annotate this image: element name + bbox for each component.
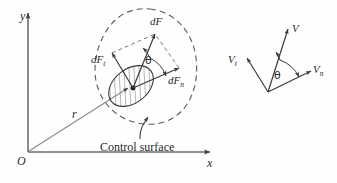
origin-label: O — [17, 155, 26, 167]
axis-x-label: x — [207, 157, 212, 169]
velocity-normal-label: Vn — [313, 64, 323, 78]
force-tangential-label: dFt — [91, 54, 105, 68]
velocity-angle-label: θ — [274, 70, 281, 81]
diagram-vector-graphics — [0, 0, 337, 183]
velocity-tangential-label: Vt — [228, 54, 237, 68]
velocity-tangential-subscript: t — [235, 59, 237, 68]
velocity-vector-V — [268, 29, 288, 92]
velocity-resultant-label: V — [292, 23, 299, 34]
force-tangential-subscript: t — [103, 59, 105, 68]
figure-canvas: y x O r dF dFt dFn θ Control surface V V… — [0, 0, 337, 183]
force-normal-base: dF — [168, 74, 180, 86]
differential-area-element — [101, 57, 161, 115]
force-resultant-label: dF — [150, 16, 162, 27]
velocity-normal-base: V — [313, 63, 320, 75]
force-normal-subscript: n — [180, 80, 184, 89]
position-vector-label: r — [72, 108, 77, 120]
control-surface-leader — [140, 117, 148, 139]
velocity-normal-subscript: n — [320, 69, 324, 78]
force-angle-label: θ — [145, 55, 152, 66]
axis-y-label: y — [20, 10, 25, 22]
control-surface-annotation: Control surface — [100, 141, 174, 153]
velocity-tangential-base: V — [228, 53, 235, 65]
force-normal-label: dFn — [168, 75, 184, 89]
velocity-vector-V-t — [247, 58, 268, 92]
force-tangential-base: dF — [91, 53, 103, 65]
